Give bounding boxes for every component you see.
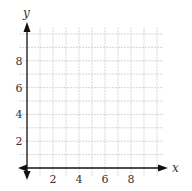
y-tick-label: 4: [16, 108, 23, 121]
x-tick-label: 8: [128, 173, 135, 186]
x-tick-label: 2: [50, 173, 57, 186]
grid-lines: [19, 27, 164, 176]
y-axis-arrow-down-icon: [24, 171, 31, 180]
y-axis-arrow-up-icon: [24, 22, 31, 32]
x-tick-label: 6: [102, 173, 109, 186]
x-tick-label: 4: [76, 173, 83, 186]
coordinate-grid: 24682468 x y: [0, 0, 192, 191]
x-axis-arrow-left-icon: [18, 165, 27, 172]
y-tick-label: 8: [16, 55, 23, 68]
y-tick-label: 6: [16, 82, 23, 95]
x-axis-arrow-right-icon: [158, 165, 168, 172]
y-axis-label: y: [22, 6, 30, 20]
x-axis-label: x: [172, 161, 179, 175]
y-tick-label: 2: [16, 135, 23, 148]
